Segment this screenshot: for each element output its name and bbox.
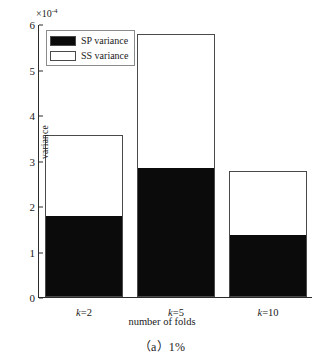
bar-k5-sp-segment (138, 168, 214, 296)
y-tick-label-6: 6 (15, 20, 35, 31)
figure-caption: （a）1% (0, 337, 324, 355)
bar-k10[interactable] (229, 171, 307, 297)
y-tick-mark-1 (39, 252, 43, 253)
y-tick-label-5: 5 (15, 65, 35, 76)
bar-k2[interactable] (45, 135, 123, 297)
legend-label-sp-variance: SP variance (81, 36, 128, 46)
y-tick-mark-5 (39, 70, 43, 71)
y-tick-label-1: 1 (15, 247, 35, 258)
legend-swatch-ss-variance (50, 51, 76, 61)
bar-k2-sp-segment (46, 216, 122, 296)
figure: ×10-4 0 1 2 3 4 5 6 k=2 k=5 k=10 (0, 0, 324, 363)
y-tick-label-0: 0 (15, 293, 35, 304)
legend-item-sp-variance[interactable]: SP variance (50, 33, 129, 48)
y-tick-mark-2 (39, 207, 43, 208)
legend-item-ss-variance[interactable]: SS variance (50, 48, 129, 63)
y-axis-multiplier-mantissa: ×10 (36, 8, 52, 19)
y-axis-title: variance (40, 92, 50, 192)
y-axis-multiplier-power: -4 (52, 7, 58, 15)
legend-swatch-sp-variance (50, 36, 76, 46)
y-tick-mark-6 (39, 25, 43, 26)
x-axis-title: number of folds (0, 316, 324, 327)
y-tick-mark-0 (39, 298, 43, 299)
y-tick-label-4: 4 (15, 111, 35, 122)
y-tick-label-2: 2 (15, 202, 35, 213)
legend: SP variance SS variance (46, 30, 135, 66)
plot-area: 0 1 2 3 4 5 6 k=2 k=5 k=10 variance (38, 25, 312, 298)
y-tick-label-3: 3 (15, 156, 35, 167)
bar-k10-sp-segment (230, 235, 306, 296)
bar-k5[interactable] (137, 34, 215, 297)
legend-label-ss-variance: SS variance (81, 51, 129, 61)
y-axis-multiplier: ×10-4 (36, 7, 57, 19)
